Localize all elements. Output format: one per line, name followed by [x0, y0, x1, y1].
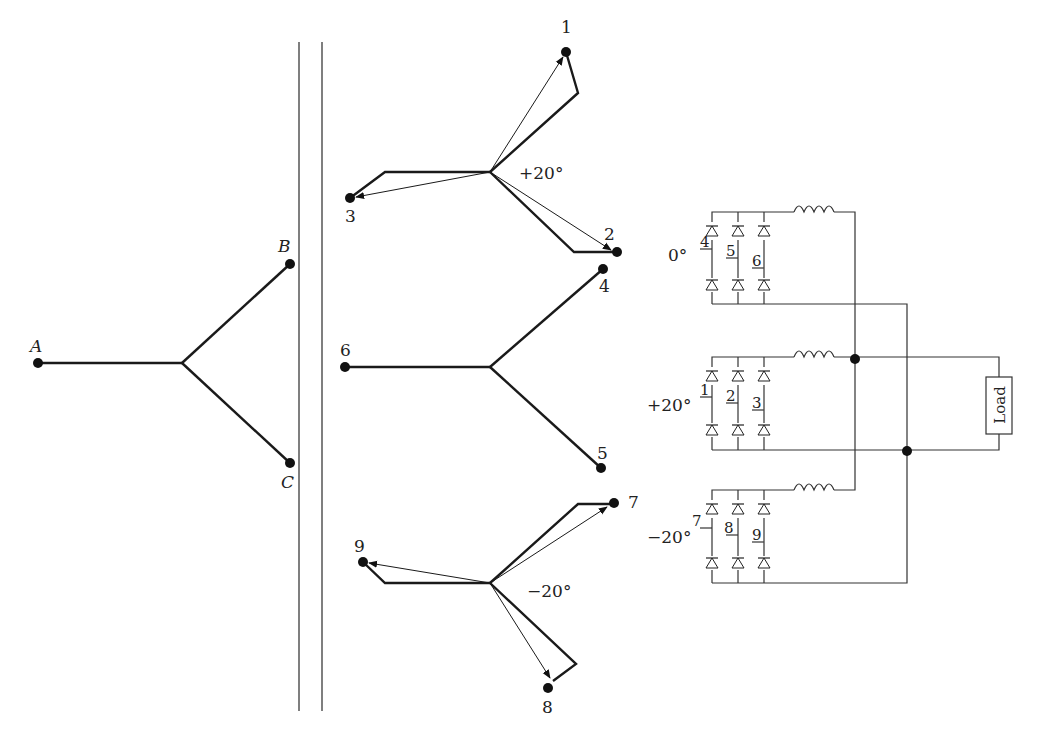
junction-negative	[902, 446, 912, 456]
terminal-a-dot	[33, 358, 43, 368]
rectifier-bridge-0: 4 5 6 0°	[668, 206, 907, 450]
label-2: 2	[604, 224, 615, 244]
bridge-input-5: 5	[726, 242, 736, 260]
transformer-rectifier-diagram: A B C 1 2 3 +20° 4 5 6	[0, 0, 1040, 739]
inductor-icon	[794, 206, 834, 212]
label-6: 6	[340, 340, 351, 360]
label-9: 9	[354, 536, 365, 556]
label-a: A	[28, 336, 42, 356]
rectifier-bridge-minus20: 7 8 9 −20°	[647, 357, 907, 583]
label-3: 3	[345, 206, 356, 226]
bridge-input-8: 8	[724, 519, 734, 537]
load: Load	[986, 377, 1012, 434]
secondary-star-minus20: 7 8 9 −20°	[354, 492, 639, 717]
label-1: 1	[561, 17, 572, 37]
bridge-input-6: 6	[752, 252, 762, 270]
inductor-icon	[794, 351, 834, 357]
rectifier-bridge-plus20: 1 2 3 +20°	[647, 351, 999, 450]
bridge-input-3: 3	[752, 394, 762, 412]
bridge-input-1: 1	[700, 381, 710, 399]
label-5: 5	[597, 443, 608, 463]
label-7: 7	[628, 492, 639, 512]
terminal-b-dot	[285, 259, 295, 269]
bridge-input-9: 9	[752, 526, 762, 544]
phase-shift-minus20: −20°	[527, 581, 571, 601]
primary-star: A B C	[28, 236, 295, 492]
label-4: 4	[599, 276, 610, 296]
secondary-star-zero: 4 5 6	[340, 264, 610, 473]
label-c: C	[281, 472, 294, 492]
bridge-input-4: 4	[700, 233, 710, 251]
secondary-star-plus20: 1 2 3 +20°	[345, 17, 622, 257]
label-b: B	[277, 236, 291, 256]
transformer-core	[299, 42, 322, 711]
bridge-shift-plus20: +20°	[647, 395, 691, 415]
inductor-icon	[794, 484, 834, 490]
bridge-input-2: 2	[726, 387, 736, 405]
load-label: Load	[991, 386, 1009, 424]
bridge-shift-minus20: −20°	[647, 527, 691, 547]
bridge-shift-0: 0°	[668, 245, 687, 265]
label-8: 8	[542, 697, 553, 717]
phase-shift-plus20: +20°	[519, 163, 563, 183]
terminal-c-dot	[285, 458, 295, 468]
bridge-input-7: 7	[692, 512, 702, 530]
junction-positive	[850, 354, 860, 364]
